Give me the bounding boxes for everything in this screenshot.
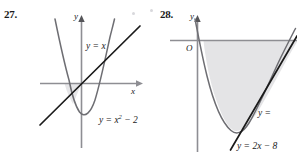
figure-panel-28: 28. y O <box>148 0 297 158</box>
y-axis-label-27: y <box>74 11 78 21</box>
figure-panel-27: 27. y <box>0 0 150 158</box>
eq-part-suffix: − 2 <box>122 115 138 125</box>
equation-label-line-27: y = x <box>86 41 106 51</box>
plot-area-27 <box>0 0 150 158</box>
equation-label-line-28: y = 2x − 8 <box>237 141 277 151</box>
graph-27 <box>0 0 150 158</box>
x-axis-label-27: x <box>131 86 135 96</box>
figure-sheet: 27. y <box>0 0 297 158</box>
origin-label-28: O <box>186 43 193 53</box>
graph-28 <box>148 0 297 158</box>
eq-part-prefix: y = x <box>99 115 119 125</box>
y-axis-label-28: y <box>190 11 194 21</box>
plot-area-28 <box>148 0 297 158</box>
equation-label-parabola-27: y = x2 − 2 <box>99 113 138 125</box>
equation-label-parabola-28: y = <box>258 108 271 118</box>
x-axis-27 <box>40 80 143 87</box>
